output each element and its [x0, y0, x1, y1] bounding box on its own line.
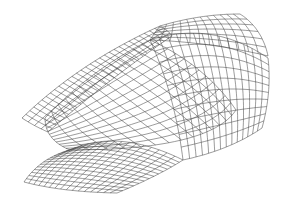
central-dome-patch	[45, 40, 236, 150]
top-right-crown-patch	[150, 14, 268, 56]
wireframe-surface	[0, 0, 286, 206]
wireframe-figure	[0, 0, 286, 206]
front-left-vault-patch	[24, 141, 183, 193]
mesh-lines	[22, 14, 269, 193]
